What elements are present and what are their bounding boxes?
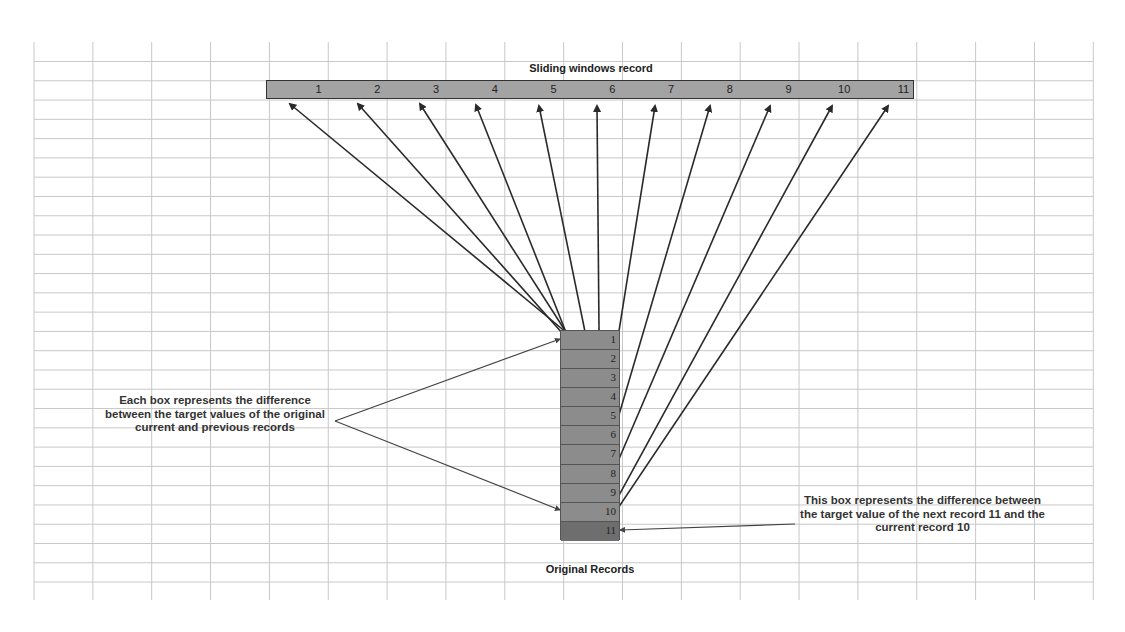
sliding-window-cell: 6 <box>561 81 620 98</box>
right-annotation: This box represents the difference betwe… <box>795 494 1050 535</box>
original-record-row: 6 <box>561 426 619 445</box>
sliding-window-cell: 7 <box>619 81 678 98</box>
sliding-window-cell: 10 <box>796 81 855 98</box>
original-record-row: 7 <box>561 445 619 464</box>
original-record-row: 10 <box>561 503 619 522</box>
sliding-window-cell: 3 <box>384 81 443 98</box>
next-record-row: 11 <box>561 522 619 541</box>
sliding-window-cell: 11 <box>854 81 913 98</box>
original-record-row: 4 <box>561 388 619 407</box>
original-record-row: 8 <box>561 465 619 484</box>
sliding-window-cell: 9 <box>737 81 796 98</box>
sliding-window-cell: 1 <box>267 81 326 98</box>
sliding-window-cell: 8 <box>678 81 737 98</box>
original-records-label: Original Records <box>520 563 660 575</box>
sliding-window-bar: 1 2 3 4 5 6 7 8 9 10 11 <box>266 80 914 99</box>
original-record-row: 1 <box>561 331 619 350</box>
original-record-row: 3 <box>561 369 619 388</box>
original-record-row: 2 <box>561 350 619 369</box>
left-annotation: Each box represents the difference betwe… <box>95 394 335 435</box>
sliding-window-cell: 5 <box>502 81 561 98</box>
original-record-row: 9 <box>561 484 619 503</box>
original-records-column: 1 2 3 4 5 6 7 8 9 10 11 <box>560 330 620 540</box>
original-record-row: 5 <box>561 407 619 426</box>
sliding-window-cell: 2 <box>326 81 385 98</box>
sliding-window-title: Sliding windows record <box>266 62 916 74</box>
sliding-window-cell: 4 <box>443 81 502 98</box>
